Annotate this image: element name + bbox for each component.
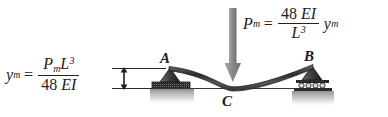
label-point-a: A (160, 50, 170, 67)
eq-right-num-48: 48 (281, 5, 297, 22)
equation-deflection: ym = PmL3 48 EI (6, 56, 81, 93)
eq-right-num-ei: EI (301, 5, 316, 22)
eq-left-num-l: L (60, 55, 69, 72)
applied-load-arrow (225, 8, 242, 82)
eq-right-lhs: P (243, 16, 253, 32)
ground-support-a (150, 82, 194, 105)
eq-left-den-ei: EI (61, 76, 76, 93)
eq-right-lhs-sub: m (253, 19, 260, 29)
roller-wheels (299, 83, 325, 88)
eq-right-numerator: 48 EI (278, 6, 319, 23)
eq-left-lhs-sub: m (13, 70, 20, 80)
eq-right-den-l-sup: 3 (301, 24, 306, 35)
eq-left-den-48: 48 (41, 76, 57, 93)
eq-right-trailing-sub: m (331, 19, 338, 29)
eq-right-trailing-y: y (324, 16, 331, 32)
label-point-c: C (222, 93, 232, 110)
eq-left-fraction: PmL3 48 EI (38, 56, 79, 93)
label-point-b: B (304, 48, 314, 65)
deflection-dimension-arrow (121, 67, 128, 90)
eq-left-denominator: 48 EI (38, 76, 79, 93)
eq-left-numerator: PmL3 (40, 56, 77, 75)
eq-right-fraction: 48 EI L3 (278, 6, 319, 42)
deflected-beam (169, 65, 313, 92)
eq-left-lhs: y (6, 67, 13, 83)
figure-canvas: ym = PmL3 48 EI Pm = 48 EI L3 ym A B C (0, 0, 388, 117)
eq-left-num-p: P (43, 55, 53, 72)
eq-right-denominator: L3 (289, 24, 309, 41)
eq-left-equals: = (24, 67, 33, 83)
eq-right-den-l: L (291, 25, 300, 42)
eq-left-num-l-sup: 3 (70, 55, 75, 66)
eq-right-equals: = (264, 16, 273, 32)
equation-load: Pm = 48 EI L3 ym (243, 6, 338, 42)
